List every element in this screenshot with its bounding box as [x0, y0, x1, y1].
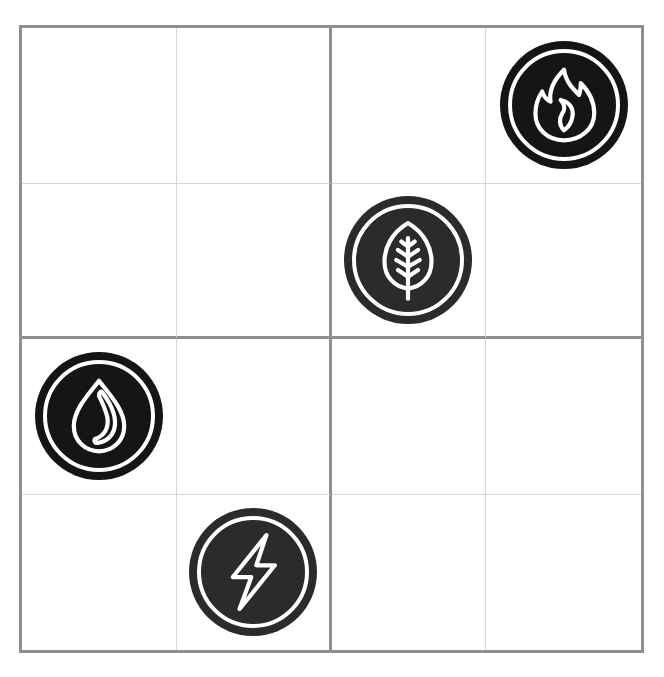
cell-r1-c0[interactable] — [22, 184, 177, 340]
lightning-icon — [211, 530, 295, 614]
water-token[interactable] — [35, 352, 163, 480]
cell-r0-c1[interactable] — [177, 28, 332, 184]
cell-r3-c3[interactable] — [486, 495, 641, 651]
cell-r1-c2[interactable] — [332, 184, 487, 340]
cell-r0-c0[interactable] — [22, 28, 177, 184]
leaf-token[interactable] — [344, 196, 472, 324]
cell-r2-c1[interactable] — [177, 339, 332, 495]
fire-token[interactable] — [500, 41, 628, 169]
cell-r2-c3[interactable] — [486, 339, 641, 495]
cell-r0-c3[interactable] — [486, 28, 641, 184]
cell-r0-c2[interactable] — [332, 28, 487, 184]
cell-r1-c3[interactable] — [486, 184, 641, 340]
cell-r1-c1[interactable] — [177, 184, 332, 340]
cell-r3-c0[interactable] — [22, 495, 177, 651]
cell-r3-c2[interactable] — [332, 495, 487, 651]
cell-r2-c0[interactable] — [22, 339, 177, 495]
leaf-icon — [366, 218, 450, 302]
lightning-token[interactable] — [189, 508, 317, 636]
puzzle-board — [19, 25, 644, 653]
cell-r2-c2[interactable] — [332, 339, 487, 495]
water-drop-icon — [57, 374, 141, 458]
cell-r3-c1[interactable] — [177, 495, 332, 651]
fire-icon — [522, 63, 606, 147]
